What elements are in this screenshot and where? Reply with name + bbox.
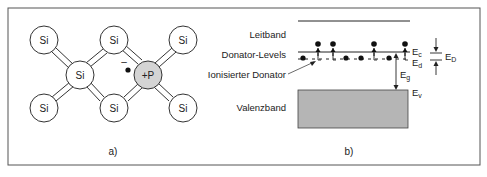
- svg-text:Si: Si: [40, 35, 49, 46]
- label-eD: ED: [445, 51, 456, 63]
- atom-si-3: Si: [169, 26, 197, 54]
- caption-a: a): [109, 146, 118, 157]
- label-eg: Eg: [400, 69, 410, 82]
- svg-text:Si: Si: [40, 103, 49, 114]
- conduction-electrons: [315, 41, 408, 56]
- atom-si-2: Si: [100, 26, 128, 54]
- label-ed: Ed: [412, 57, 422, 69]
- bound-donor-electrons: [300, 55, 391, 60]
- svg-text:Si: Si: [110, 35, 119, 46]
- label-ev: Ev: [412, 87, 422, 99]
- ed-gap-indicator: [430, 38, 442, 75]
- atom-si-7: Si: [169, 94, 197, 122]
- atom-si-6: Si: [100, 94, 128, 122]
- caption-b: b): [345, 146, 354, 157]
- svg-text:Si: Si: [110, 103, 119, 114]
- atom-si-5: Si: [30, 94, 58, 122]
- svg-text:Si: Si: [179, 103, 188, 114]
- label-ionisierter-donator: Ionisierter Donator: [208, 69, 286, 80]
- ionized-donor-arrowhead: [310, 61, 316, 66]
- figure-canvas: Si Si Si Si +P Si Si Si – a) Leitband Do…: [0, 0, 487, 177]
- valence-band: [298, 90, 408, 128]
- svg-text:Si: Si: [76, 70, 85, 81]
- label-valenzband: Valenzband: [237, 102, 286, 113]
- svg-text:Si: Si: [179, 35, 188, 46]
- label-leitband: Leitband: [250, 29, 286, 40]
- atom-phosphorus: +P: [134, 61, 162, 89]
- atom-si-1: Si: [30, 26, 58, 54]
- atom-si-4: Si: [66, 61, 94, 89]
- ionized-donor-pointer: [288, 62, 314, 74]
- label-donator-levels: Donator-Levels: [222, 49, 287, 60]
- panel-a-lattice: Si Si Si Si +P Si Si Si – a): [30, 26, 197, 157]
- panel-b-band-diagram: Leitband Donator-Levels Ionisierter Dona…: [208, 21, 457, 157]
- svg-text:+P: +P: [142, 70, 155, 81]
- electron-charge-label: –: [121, 56, 127, 67]
- free-electron: [125, 67, 130, 72]
